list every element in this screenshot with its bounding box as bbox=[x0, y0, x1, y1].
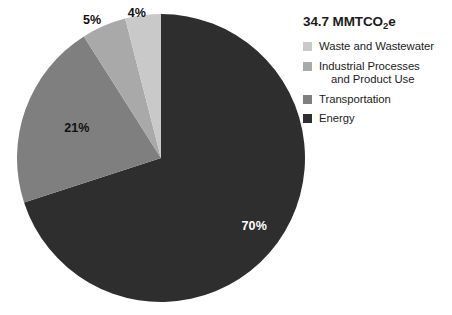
legend-item[interactable]: Industrial Processesand Product Use bbox=[303, 60, 451, 87]
legend-item-label: Industrial Processesand Product Use bbox=[319, 60, 420, 87]
pie-slice-group bbox=[17, 14, 305, 302]
legend-item[interactable]: Waste and Wastewater bbox=[303, 40, 451, 54]
legend-item[interactable]: Energy bbox=[303, 112, 451, 126]
pie-chart-svg: 70%21%5%4% bbox=[0, 0, 310, 315]
legend-label-line: and Product Use bbox=[319, 73, 420, 87]
legend-item[interactable]: Transportation bbox=[303, 93, 451, 107]
pie-slice-value-label: 70% bbox=[242, 219, 267, 233]
legend-swatch-icon bbox=[303, 114, 312, 123]
legend-label-line: Industrial Processes bbox=[319, 60, 420, 74]
legend-label-line: Energy bbox=[319, 112, 355, 126]
chart-title: 34.7 MMTCO2e bbox=[303, 14, 451, 29]
legend-item-label: Energy bbox=[319, 112, 355, 126]
chart-title-subscript: 2 bbox=[383, 20, 388, 31]
chart-title-suffix: e bbox=[388, 14, 395, 29]
legend-swatch-icon bbox=[303, 95, 312, 104]
pie-slice-value-label: 4% bbox=[128, 6, 146, 20]
legend-label-line: Transportation bbox=[319, 93, 391, 107]
chart-title-prefix: 34.7 MMTCO bbox=[303, 14, 383, 29]
legend-panel: 34.7 MMTCO2e Waste and WastewaterIndustr… bbox=[303, 14, 451, 132]
legend-list: Waste and WastewaterIndustrial Processes… bbox=[303, 40, 451, 126]
pie-slice-value-label: 5% bbox=[83, 13, 101, 27]
legend-swatch-icon bbox=[303, 42, 312, 51]
pie-chart-area: 70%21%5%4% bbox=[0, 0, 310, 315]
legend-swatch-icon bbox=[303, 62, 312, 71]
legend-label-line: Waste and Wastewater bbox=[319, 40, 434, 54]
pie-slice-value-label: 21% bbox=[64, 121, 89, 135]
pie-chart-figure: 70%21%5%4% 34.7 MMTCO2e Waste and Wastew… bbox=[0, 0, 452, 315]
legend-item-label: Transportation bbox=[319, 93, 391, 107]
legend-item-label: Waste and Wastewater bbox=[319, 40, 434, 54]
